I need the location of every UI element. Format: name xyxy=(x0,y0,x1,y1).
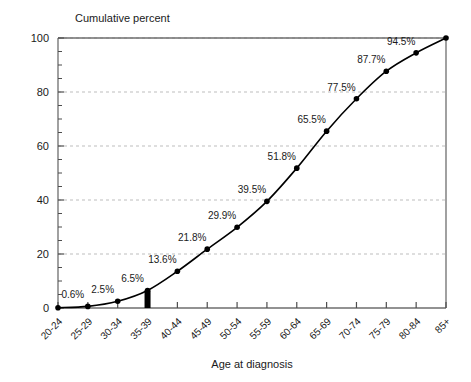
data-marker-35-39 xyxy=(145,288,151,294)
data-marker-45-49 xyxy=(204,246,210,252)
y-tick-label-80: 80 xyxy=(37,86,49,98)
y-tick-label-100: 100 xyxy=(31,32,49,44)
data-marker-85+ xyxy=(443,35,449,41)
data-point-label-60-64: 51.8% xyxy=(268,151,296,162)
data-point-label-65-69: 65.5% xyxy=(297,114,325,125)
data-point-label-50-54: 29.9% xyxy=(208,210,236,221)
x-axis-title: Age at diagnosis xyxy=(211,358,293,370)
data-marker-20-24 xyxy=(55,305,61,311)
y-tick-label-20: 20 xyxy=(37,248,49,260)
data-point-label-75-79: 87.7% xyxy=(357,54,385,65)
data-point-label-30-34: 2.5% xyxy=(91,284,114,295)
data-point-label-40-44: 13.6% xyxy=(148,254,176,265)
y-tick-label-40: 40 xyxy=(37,194,49,206)
data-marker-70-74 xyxy=(354,96,360,102)
data-marker-65-69 xyxy=(324,128,330,134)
data-marker-75-79 xyxy=(384,68,390,74)
y-tick-label-0: 0 xyxy=(43,302,49,314)
data-marker-30-34 xyxy=(115,298,121,304)
data-point-label-45-49: 21.8% xyxy=(178,232,206,243)
data-marker-50-54 xyxy=(234,224,240,230)
data-point-label-35-39: 6.5% xyxy=(121,273,144,284)
data-point-label-55-59: 39.5% xyxy=(238,184,266,195)
data-marker-60-64 xyxy=(294,165,300,171)
data-point-label-70-74: 77.5% xyxy=(327,82,355,93)
data-marker-40-44 xyxy=(175,268,181,274)
data-point-label-25-29: 0.6% xyxy=(61,289,84,300)
data-point-label-80-84: 94.5% xyxy=(387,36,415,47)
chart-canvas: Cumulative percent 020406080100 20-2425-… xyxy=(0,0,471,382)
data-marker-25-29 xyxy=(85,304,91,310)
data-marker-80-84 xyxy=(413,50,419,56)
chart-title: Cumulative percent xyxy=(75,12,170,24)
data-marker-55-59 xyxy=(264,199,270,205)
y-tick-label-60: 60 xyxy=(37,140,49,152)
cumulative-percent-chart: Cumulative percent 020406080100 20-2425-… xyxy=(0,0,471,382)
